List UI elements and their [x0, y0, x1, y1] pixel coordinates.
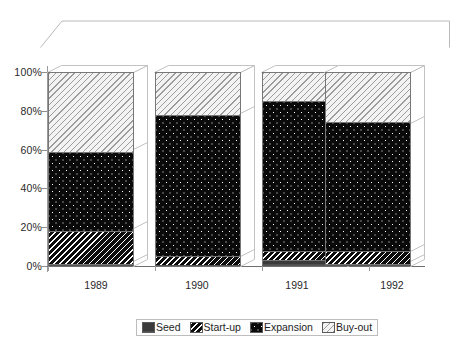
y-tick-mark-80 [41, 111, 47, 112]
x-axis-labels: 1989 1990 1991 1992 [48, 279, 424, 295]
bar-1989-segment-expansion [48, 152, 134, 232]
y-tick-mark-20 [41, 227, 47, 228]
y-tick-label-80: 80% [20, 105, 42, 117]
bar-1992-right-wall [410, 65, 425, 267]
bar-1990-front [155, 72, 241, 266]
y-axis-labels: 100% 80% 60% 40% 20% 0% [0, 0, 42, 359]
bar-1992-front [325, 72, 411, 266]
chart-legend: Seed Start-up Expansion Buy-out [136, 319, 378, 336]
x-tick-mark-1 [155, 266, 156, 271]
expansion-swatch-icon [250, 322, 263, 333]
seed-swatch-icon [142, 322, 155, 333]
legend-item-expansion[interactable]: Expansion [250, 322, 313, 333]
y-tick-mark-60 [41, 150, 47, 151]
legend-item-seed[interactable]: Seed [142, 322, 181, 333]
bar-1990-right-wall [240, 65, 255, 267]
chart-outer-3d-lid [40, 18, 450, 48]
y-tick-mark-40 [41, 188, 47, 189]
legend-label-expansion: Expansion [264, 322, 313, 333]
bar-1992-segment-expansion [325, 122, 411, 250]
x-tick-label-1991: 1991 [285, 279, 308, 291]
y-tick-label-60: 60% [20, 144, 42, 156]
bar-1989-right-wall [133, 65, 148, 267]
bar-1990-segment-expansion [155, 115, 241, 257]
x-tick-mark-2 [262, 266, 263, 271]
y-tick-label-40: 40% [20, 182, 42, 194]
bar-1992-segment-buyout [325, 72, 411, 122]
x-tick-mark-0 [48, 266, 49, 271]
buyout-swatch-icon [322, 322, 335, 333]
legend-item-startup[interactable]: Start-up [190, 322, 241, 333]
chart-canvas: 100% 80% 60% 40% 20% 0% [0, 0, 459, 359]
y-tick-mark-0 [41, 266, 47, 267]
bar-1992-segment-seed [325, 264, 411, 267]
bar-1989-front [48, 72, 134, 266]
x-tick-label-1992: 1992 [380, 279, 403, 291]
x-tick-mark-3 [369, 266, 370, 271]
bar-1989-segment-startup [48, 231, 134, 264]
bar-1989-segment-seed [48, 264, 134, 267]
y-tick-label-0: 0% [26, 260, 42, 272]
startup-swatch-icon [190, 322, 203, 333]
legend-label-startup: Start-up [204, 322, 241, 333]
legend-label-seed: Seed [156, 322, 181, 333]
bar-1989-segment-buyout [48, 72, 134, 152]
x-tick-label-1989: 1989 [84, 279, 107, 291]
legend-label-buyout: Buy-out [336, 322, 372, 333]
legend-item-buyout[interactable]: Buy-out [322, 322, 372, 333]
bar-1990-segment-buyout [155, 72, 241, 115]
x-tick-label-1990: 1990 [185, 279, 208, 291]
bar-1992-segment-startup [325, 251, 411, 265]
bar-1990-segment-startup [155, 256, 241, 266]
y-tick-label-20: 20% [20, 221, 42, 233]
y-tick-label-100: 100% [14, 66, 42, 78]
